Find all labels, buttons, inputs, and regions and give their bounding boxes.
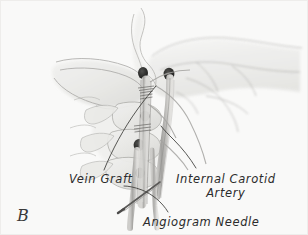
label-angiogram-needle: Angiogram Needle	[143, 215, 260, 229]
figure-letter: B	[17, 206, 29, 225]
label-vein-graft: Vein Graft	[69, 172, 133, 186]
figure-panel: Vein Graft Internal Carotid Artery Angio…	[0, 0, 308, 235]
label-internal-carotid-line2: Artery	[176, 186, 276, 200]
label-internal-carotid-line1: Internal Carotid	[176, 172, 276, 186]
label-internal-carotid-artery: Internal Carotid Artery	[176, 172, 276, 200]
